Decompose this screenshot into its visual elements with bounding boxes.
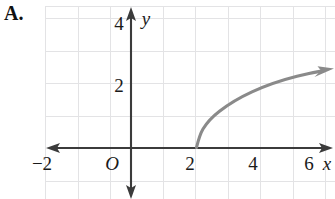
y-tick-label-2: 2 [114,75,124,96]
y-tick-label-4: 4 [114,13,124,34]
y-axis-name: y [140,8,151,29]
x-tick-label-2: 2 [185,153,195,174]
tick-labels: −2 O 2 4 6 x 2 4 y [32,8,332,174]
coordinate-plane: −2 O 2 4 6 x 2 4 y [0,0,335,199]
graph-figure: A. [0,0,335,199]
origin-label: O [105,153,119,174]
x-tick-label-neg2: −2 [32,153,52,174]
x-tick-label-4: 4 [248,153,258,174]
x-axis-name: x [322,153,332,174]
function-curve-group [197,66,335,147]
x-tick-label-6: 6 [304,153,314,174]
